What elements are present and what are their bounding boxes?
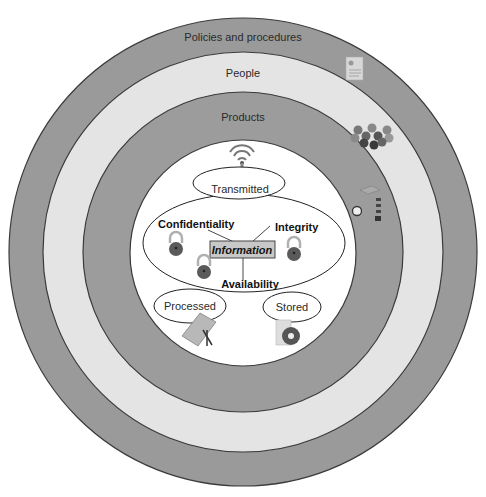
information-security-diagram: Policies and procedures People Products — [0, 0, 486, 497]
label-confidentiality: Confidentiality — [158, 218, 235, 230]
document-icon — [346, 57, 363, 80]
label-stored: Stored — [276, 301, 308, 313]
label-policies: Policies and procedures — [184, 31, 302, 43]
label-integrity: Integrity — [275, 221, 319, 233]
label-people: People — [226, 67, 260, 79]
label-products: Products — [221, 111, 265, 123]
label-processed: Processed — [164, 300, 216, 312]
label-availability: Availability — [221, 278, 280, 290]
label-transmitted: Transmitted — [211, 183, 269, 195]
label-information: Information — [212, 244, 273, 256]
